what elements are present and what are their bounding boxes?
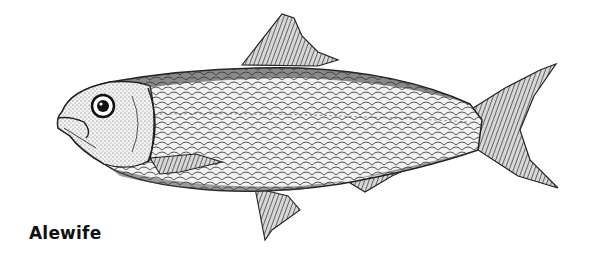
pelvic-fin [255,188,300,240]
fish-eye [92,95,114,117]
tail-fin [470,64,558,188]
dorsal-fin [242,14,338,66]
fish-caption: Alewife [29,223,101,243]
